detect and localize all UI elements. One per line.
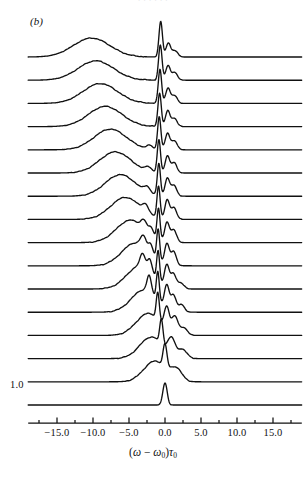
spectral-trace-16 (28, 383, 301, 405)
spectral-trace-1 (28, 21, 301, 57)
axis-title-omega: ω (133, 446, 141, 458)
axis-title-minus: − (141, 446, 153, 458)
x-tick-label-4: 5.0 (194, 428, 207, 439)
plot-area (0, 0, 306, 430)
spectral-trace-13 (28, 292, 301, 335)
spectral-trace-9 (28, 208, 301, 242)
spectral-trace-4 (28, 93, 301, 127)
x-tick-label-1: −10.0 (81, 428, 106, 439)
spectral-trace-10 (28, 229, 301, 266)
x-tick-label-5: 10.0 (228, 428, 247, 439)
traces-group (28, 21, 301, 405)
x-tick-label-3: 0.0 (158, 428, 171, 439)
spectral-trace-5 (28, 117, 301, 150)
x-tick-label-0: −15.0 (45, 428, 70, 439)
figure-root: · · · · · · (b) 1.0 −15.0−10.0−5.00.05.0… (0, 0, 306, 477)
x-tick-label-2: −5.0 (119, 428, 138, 439)
axis-title-omega-zero-sub: 0 (161, 451, 165, 460)
x-axis-group (28, 418, 302, 424)
spectral-trace-15 (28, 344, 301, 382)
spectral-trace-8 (28, 186, 301, 219)
axis-title-tau-sub: 0 (173, 451, 177, 460)
waterfall-plot-svg (0, 0, 306, 430)
spectral-trace-14 (28, 319, 301, 359)
x-tick-label-6: 15.0 (264, 428, 283, 439)
spectral-trace-12 (28, 271, 301, 312)
scale-bar-label: 1.0 (10, 380, 24, 391)
spectral-trace-11 (28, 251, 301, 290)
spectral-trace-6 (28, 140, 301, 173)
spectral-trace-7 (28, 163, 301, 196)
x-tick-labels: −15.0−10.0−5.00.05.010.015.0 (0, 428, 306, 444)
x-axis-title: (ω − ω0)τ0 (0, 447, 306, 459)
